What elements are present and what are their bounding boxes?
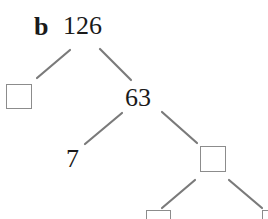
mid-blank-box[interactable]	[200, 146, 226, 172]
bottom-left-blank-box[interactable]	[146, 210, 171, 219]
edge-126-to-left-blank	[37, 50, 70, 78]
edge-63-to-7	[85, 113, 122, 144]
root-node-value: 126	[63, 13, 102, 39]
edge-mid-blank-to-bottom-right	[229, 180, 262, 208]
part-label: b	[34, 14, 48, 40]
left-blank-box[interactable]	[6, 84, 32, 109]
factor-tree-diagram: b 126 63 7	[0, 0, 268, 219]
node-63-value: 63	[125, 85, 151, 111]
edge-mid-blank-to-bottom-left	[162, 180, 195, 208]
bottom-right-blank-box[interactable]	[262, 210, 268, 219]
edge-126-to-63	[100, 49, 131, 80]
edge-63-to-mid-blank	[162, 112, 197, 143]
node-7-value: 7	[66, 146, 79, 172]
